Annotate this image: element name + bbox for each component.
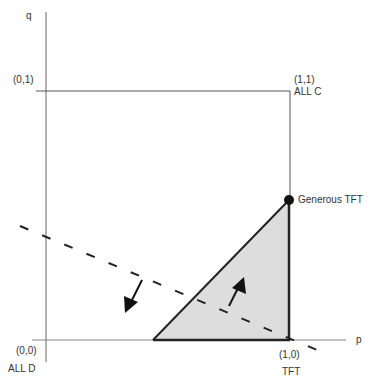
all-c-label: ALL C: [294, 86, 321, 98]
generous-tft-label: Generous TFT: [298, 194, 363, 206]
arrow-down-left-icon: [124, 280, 142, 313]
tft-label: TFT: [282, 366, 300, 378]
generous-tft-point: [284, 195, 294, 205]
origin-coord: (0,0): [16, 345, 37, 357]
q-axis-label: q: [26, 10, 32, 22]
bottom-right-coord: (1,0): [279, 349, 300, 361]
top-right-coord: (1,1): [294, 74, 315, 86]
p-axis-label: p: [356, 334, 362, 346]
top-left-coord: (0,1): [13, 74, 34, 86]
all-d-label: ALL D: [8, 363, 35, 375]
